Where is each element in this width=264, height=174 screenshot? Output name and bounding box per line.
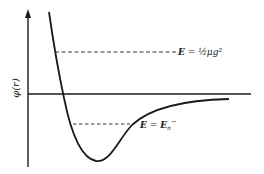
y-axis-label: φ(r) — [10, 78, 21, 98]
potential-diagram: φ(r) E = ½μg² E = En− — [0, 0, 264, 174]
potential-curve — [49, 12, 229, 161]
lower-energy-label: E = En− — [139, 118, 177, 131]
y-axis-arrow-icon — [25, 9, 31, 18]
upper-energy-label: E = ½μg² — [177, 47, 222, 57]
